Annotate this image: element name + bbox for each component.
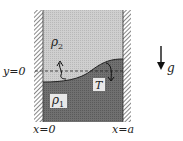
x0-label: x=0	[33, 123, 55, 136]
xa-label: x=a	[112, 123, 134, 136]
y0-label: y=0	[2, 65, 25, 78]
fluid-interface-diagram: ρ2 ρ1 T y=0 x=0 x=a g	[0, 0, 183, 141]
gravity-arrow-icon	[157, 46, 165, 70]
left-wall	[34, 10, 43, 122]
right-wall	[123, 10, 131, 122]
gravity-label: g	[167, 61, 175, 75]
